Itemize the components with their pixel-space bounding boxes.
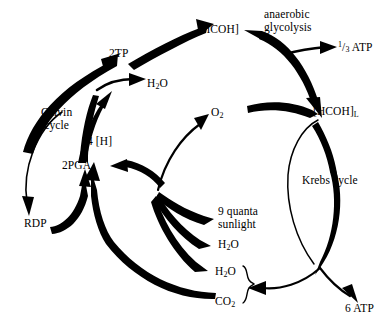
label-h2o-mid-tail: O (231, 238, 239, 250)
krebs-inner-arc (288, 120, 318, 264)
arrow-glycolysis-to-third-atp (285, 41, 337, 54)
metabolic-cycle-diagram: Calvin cycle anaerobic glycolysis Krebs … (0, 0, 389, 326)
label-one-third-atp-unit: ATP (352, 41, 373, 53)
photosynthesis-top-arc (247, 102, 318, 118)
label-h2o-top: H2O (147, 77, 168, 93)
arrow-junction-to-2pga (80, 95, 99, 163)
label-h2o-low-tail: O (228, 265, 236, 277)
label-hcoh-l-text: [HCOH] (313, 105, 354, 117)
label-hcoh-l-sub: L (354, 110, 359, 119)
diagram-canvas (0, 0, 389, 326)
label-h2o-low: H2O (215, 265, 236, 281)
label-co2-sub: 2 (231, 300, 235, 309)
label-krebs-cycle: Krebs cycle (302, 174, 358, 187)
label-one-third-atp: 1/3 ATP (338, 39, 373, 57)
label-rdp: RDP (24, 217, 47, 230)
label-o2-sub: 2 (219, 111, 223, 120)
label-9-quanta-sunlight: 9 quanta sunlight (218, 205, 258, 231)
label-calvin-cycle: Calvin cycle (41, 106, 72, 132)
label-2tp: 2TP (109, 47, 128, 60)
arrow-krebs-to-brace (248, 268, 320, 295)
label-co2: CO2 (215, 295, 235, 311)
label-hcoh-l: [HCOH]L (313, 105, 359, 121)
arrow-center-to-o2 (158, 114, 209, 190)
label-h2o-mid: H2O (218, 238, 239, 254)
arrow-to-water-top (97, 73, 146, 90)
label-o2: O2 (211, 106, 224, 122)
arrow-center-to-4h (110, 159, 165, 188)
brace-water-co2 (243, 266, 254, 303)
label-4h: 4 [H] (87, 135, 112, 148)
label-hcoh: [HCOH] (198, 23, 239, 36)
label-6-atp: 6 ATP (345, 302, 374, 315)
label-h2o-top-tail: O (160, 77, 168, 89)
label-one-third-atp-denominator: 3 (345, 45, 349, 54)
label-one-third-atp-numerator: 1 (338, 40, 342, 49)
label-co2-text: CO (215, 295, 231, 307)
arrow-co2-to-2pga (84, 162, 216, 299)
label-anaerobic-glycolysis: anaerobic glycolysis (264, 8, 312, 34)
arrow-krebs-to-6atp (320, 268, 358, 303)
label-2pga: 2PGA (62, 159, 91, 172)
